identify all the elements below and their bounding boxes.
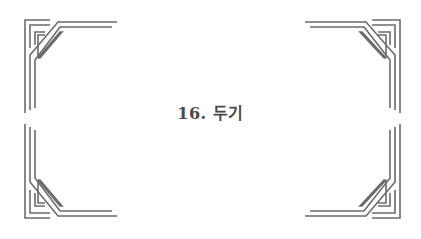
corner-ornament-bottom-left xyxy=(25,124,117,218)
title-card: 16. 두기 xyxy=(0,0,421,239)
chapter-title: 16. 두기 xyxy=(0,100,421,124)
corner-ornament-bottom-right xyxy=(305,124,400,218)
